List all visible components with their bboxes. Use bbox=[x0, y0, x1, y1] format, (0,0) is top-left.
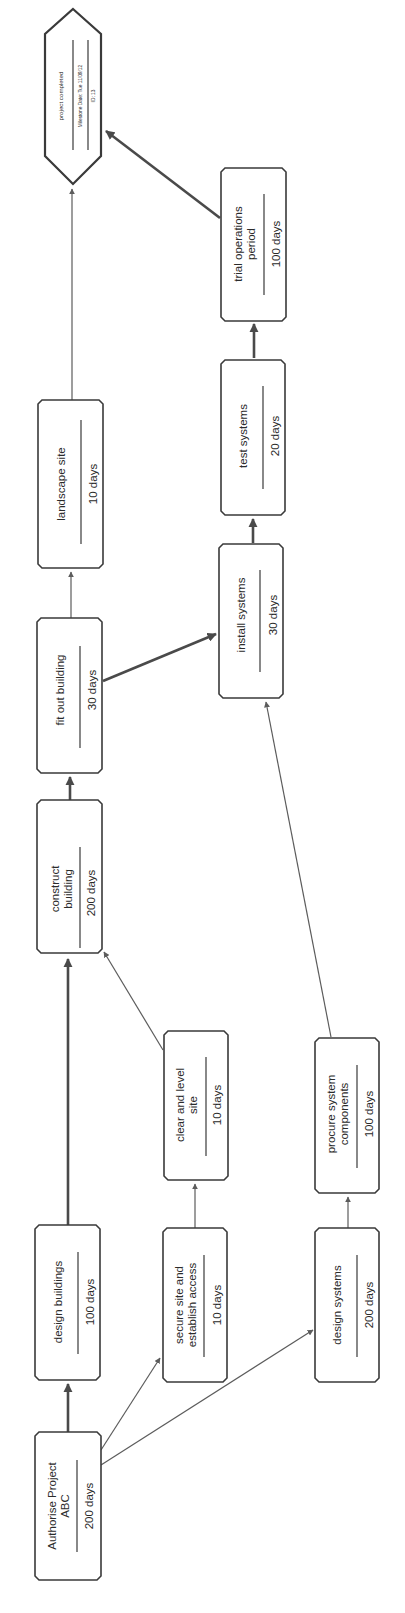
node-label-line-2: ABC bbox=[59, 1494, 71, 1518]
node-fit-out-building[interactable]: fit out building 30 days bbox=[37, 618, 102, 773]
node-duration: 200 days bbox=[85, 869, 97, 916]
node-label-line-1: design buildings bbox=[52, 1261, 64, 1344]
node-label-line-2: building bbox=[62, 869, 74, 909]
node-procure-components[interactable]: procure system components 100 days bbox=[315, 1038, 379, 1193]
node-duration: 30 days bbox=[267, 595, 279, 636]
node-label-line-1: fit out building bbox=[54, 655, 66, 726]
network-diagram: project completed Milestone Date: Tue 11… bbox=[0, 0, 405, 1613]
node-design-buildings[interactable]: design buildings 100 days bbox=[35, 1225, 100, 1380]
node-duration: 10 days bbox=[211, 1285, 223, 1326]
edge-authorise-secure-site bbox=[101, 1358, 160, 1450]
edge-procure-install bbox=[266, 702, 331, 1037]
node-label-line-1: procure system bbox=[325, 1075, 337, 1154]
node-label-line-1: secure site and bbox=[173, 1266, 185, 1344]
node-clear-level-site[interactable]: clear and level site 10 days bbox=[164, 1031, 228, 1180]
node-duration: 200 days bbox=[83, 1482, 95, 1529]
node-label-line-2: period bbox=[245, 228, 257, 260]
node-install-systems[interactable]: install systems 30 days bbox=[219, 544, 283, 698]
node-duration: 10 days bbox=[211, 1085, 223, 1126]
node-trial-operations[interactable]: trial operations period 100 days bbox=[221, 168, 286, 321]
node-design-systems[interactable]: design systems 200 days bbox=[315, 1228, 379, 1382]
node-label-line-2: establish access bbox=[186, 1263, 198, 1348]
node-duration: 100 days bbox=[270, 220, 282, 267]
node-authorise-project[interactable]: Authorise Project ABC 200 days bbox=[35, 1432, 101, 1580]
edge-fit-out-install bbox=[103, 634, 216, 681]
milestone-label: project completed bbox=[57, 71, 64, 120]
node-duration: 10 days bbox=[87, 464, 99, 505]
edge-trial-milestone bbox=[106, 131, 220, 218]
node-duration: 20 days bbox=[269, 416, 281, 457]
milestone-date: Milestone Date: Tue 11/09/12 bbox=[78, 65, 83, 128]
node-construct-building[interactable]: construct building 200 days bbox=[37, 800, 102, 953]
node-duration: 100 days bbox=[84, 1278, 96, 1325]
node-label-line-1: install systems bbox=[235, 577, 247, 652]
node-secure-site[interactable]: secure site and establish access 10 days bbox=[163, 1228, 227, 1382]
edge-clear-level-construct bbox=[104, 952, 163, 1050]
node-label-line-1: design systems bbox=[331, 1265, 343, 1345]
milestone-project-completed[interactable]: project completed Milestone Date: Tue 11… bbox=[45, 9, 101, 184]
node-label-line-1: test systems bbox=[237, 404, 249, 468]
node-duration: 30 days bbox=[86, 670, 98, 711]
node-duration: 200 days bbox=[363, 1281, 375, 1328]
node-label-line-1: landscape site bbox=[55, 447, 67, 521]
milestone-id: ID: 13 bbox=[91, 89, 96, 102]
node-label-line-1: construct bbox=[49, 865, 61, 912]
node-label-line-2: components bbox=[338, 1082, 350, 1145]
node-label-line-1: trial operations bbox=[232, 206, 244, 282]
node-duration: 100 days bbox=[363, 1090, 375, 1137]
node-label-line-1: Authorise Project bbox=[46, 1461, 58, 1549]
node-test-systems[interactable]: test systems 20 days bbox=[221, 360, 285, 515]
node-label-line-2: site bbox=[187, 1096, 199, 1114]
node-label-line-1: clear and level bbox=[174, 1068, 186, 1142]
node-landscape-site[interactable]: landscape site 10 days bbox=[38, 400, 103, 568]
